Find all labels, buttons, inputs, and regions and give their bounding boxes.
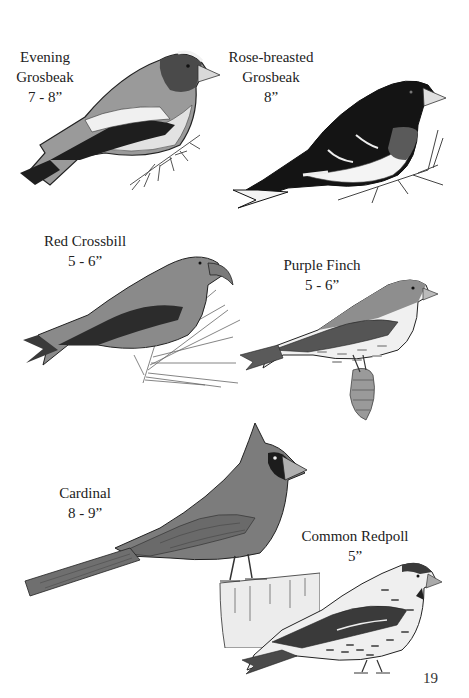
bird-name: Common Redpoll (285, 526, 425, 546)
evening-grosbeak-illustration (10, 35, 220, 200)
red-crossbill-illustration (18, 245, 248, 390)
common-redpoll-illustration (242, 560, 442, 680)
rose-breasted-grosbeak-illustration (228, 50, 468, 215)
page-number: 19 (423, 670, 438, 687)
purple-finch-illustration (238, 270, 443, 425)
